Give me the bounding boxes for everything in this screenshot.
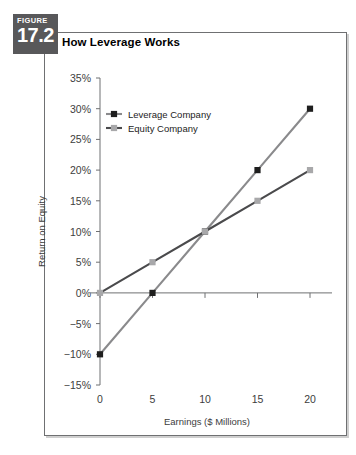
series-marker-1 (202, 228, 208, 234)
legend-label-1: Equity Company (128, 123, 198, 134)
figure-container: FIGURE 17.2 How Leverage Works 35%30%25%… (0, 0, 356, 455)
figure-badge-number: 17.2 (17, 25, 58, 46)
y-tick-label: 35% (70, 72, 91, 84)
chart-plot: 35%30%25%20%15%10%5%0%−5%−10%−15%0510152… (0, 0, 356, 455)
series-marker-1 (307, 167, 313, 173)
y-tick-label: −15% (64, 379, 91, 391)
series-marker-0 (149, 290, 155, 296)
x-tick-label: 20 (304, 393, 316, 405)
series-marker-1 (254, 198, 260, 204)
x-tick-label: 0 (97, 393, 103, 405)
series-marker-1 (97, 290, 103, 296)
y-tick-label: 0% (76, 287, 91, 299)
figure-badge: FIGURE 17.2 (13, 14, 58, 54)
y-tick-label: 15% (70, 195, 91, 207)
y-tick-label: 30% (70, 103, 91, 115)
x-axis-title: Earnings ($ Millions) (164, 416, 250, 427)
y-tick-label: −10% (64, 348, 91, 360)
legend-swatch-marker-1 (111, 125, 117, 131)
x-tick-label: 10 (199, 393, 211, 405)
series-marker-1 (149, 259, 155, 265)
x-tick-label: 15 (252, 393, 264, 405)
legend-label-0: Leverage Company (128, 109, 211, 120)
y-tick-label: 5% (76, 256, 91, 268)
x-tick-label: 5 (150, 393, 156, 405)
y-axis-title: Return on Equity (36, 196, 47, 267)
series-marker-0 (254, 167, 260, 173)
legend-swatch-marker-0 (111, 111, 117, 117)
y-tick-label: 10% (70, 226, 91, 238)
y-tick-label: 20% (70, 164, 91, 176)
series-marker-0 (97, 351, 103, 357)
y-tick-label: 25% (70, 133, 91, 145)
y-tick-label: −5% (70, 318, 91, 330)
series-marker-0 (307, 106, 313, 112)
